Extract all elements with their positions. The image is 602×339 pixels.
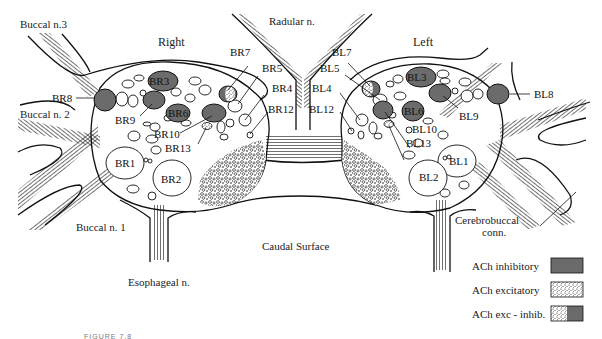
legend-swatch-excitatory <box>551 282 583 297</box>
label-br2: BR2 <box>161 173 181 185</box>
neuron-br9 <box>143 91 165 109</box>
legend-label-inhibitory: ACh inhibitory <box>472 260 539 272</box>
label-bl3: BL3 <box>407 71 427 83</box>
label-br9: BR9 <box>115 114 136 126</box>
label-buccal-n1: Buccal n. 1 <box>76 221 126 233</box>
label-bl7: BL7 <box>332 46 352 58</box>
label-buccal-n3: Buccal n.3 <box>20 18 68 30</box>
label-br3: BR3 <box>149 75 170 87</box>
figure-caption: FIGURE 7.8 <box>84 333 132 339</box>
legend-swatch-inhibitory <box>551 258 583 273</box>
label-conn: conn. <box>482 226 506 238</box>
label-bl8: BL8 <box>534 88 554 100</box>
neuron-br13 <box>202 123 212 130</box>
label-br10: BR10 <box>154 128 180 140</box>
label-left: Left <box>413 35 434 49</box>
label-buccal-n2: Buccal n. 2 <box>20 108 70 120</box>
buccal-ganglia-diagram: Buccal n.3 Right Radular n. Left Buccal … <box>0 0 602 339</box>
label-bl13: BL13 <box>406 137 432 149</box>
esophageal-trunk <box>152 205 164 260</box>
label-br5: BR5 <box>262 62 283 74</box>
label-br4: BR4 <box>272 82 293 94</box>
label-bl2: BL2 <box>419 171 439 183</box>
label-br12: BR12 <box>268 103 294 115</box>
label-br6: BR6 <box>168 107 189 119</box>
right-ganglion-cells <box>94 71 266 206</box>
label-right: Right <box>158 35 185 49</box>
label-bl5: BL5 <box>320 62 340 74</box>
label-br13: BR13 <box>165 142 191 154</box>
commissure-trunk <box>266 136 342 160</box>
label-bl12: BL12 <box>309 103 334 115</box>
label-bl9: BL9 <box>459 110 479 122</box>
neuron-br8 <box>94 89 116 111</box>
label-bl4: BL4 <box>312 82 332 94</box>
label-caudal-surface: Caudal Surface <box>262 240 330 252</box>
excitatory-cluster-right <box>198 140 266 206</box>
label-br8: BR8 <box>52 92 73 104</box>
legend-swatch-exc-inhib <box>551 306 583 321</box>
excitatory-cluster-left <box>342 140 400 205</box>
label-radular: Radular n. <box>269 15 315 27</box>
neuron-bl8 <box>487 84 509 104</box>
right-upper-trunk <box>500 98 586 140</box>
label-br7: BR7 <box>230 46 251 58</box>
legend: ACh inhibitory ACh excitatory ACh exc - … <box>472 258 583 321</box>
neuron-br7 <box>219 86 237 102</box>
label-bl10: BL10 <box>412 123 438 135</box>
label-cerebrobuccal: Cerebrobuccal <box>455 214 519 226</box>
label-esophageal: Esophageal n. <box>128 276 190 288</box>
label-bl1: BL1 <box>449 155 469 167</box>
label-bl6: BL6 <box>404 105 424 117</box>
neuron-bl10-area <box>373 101 393 119</box>
legend-label-excitatory: ACh excitatory <box>472 284 540 296</box>
label-br1: BR1 <box>115 157 135 169</box>
left-ganglion-cells <box>342 67 509 205</box>
legend-label-exc-inhib: ACh exc - inhib. <box>472 308 546 320</box>
